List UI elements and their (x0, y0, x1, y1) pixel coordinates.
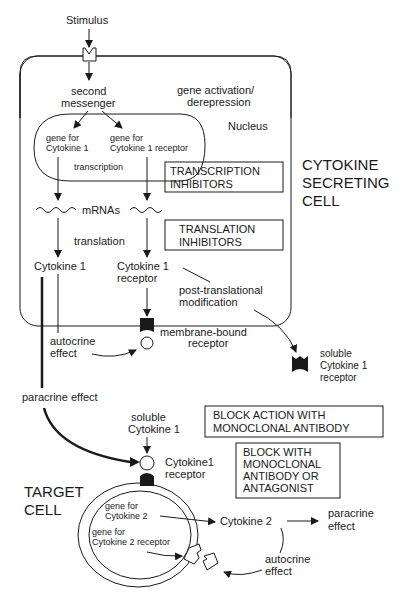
autocrine-line2: effect (50, 347, 77, 359)
cytokine1-receptor-line1: Cytokine 1 (117, 260, 169, 272)
gene-receptor-line2: Cytokine 1 receptor (110, 143, 188, 153)
mrnas-label: mRNAs (82, 204, 120, 216)
translation-label: translation (74, 235, 125, 247)
soluble-cytokine-line1: soluble (131, 411, 166, 423)
cytokine2-receptor-icon (184, 544, 201, 564)
autocrine2-line1: autocrine (265, 553, 310, 565)
translation-inhibitors-line2: INHIBITORS (179, 236, 242, 248)
bound-cytokine-icon (141, 337, 153, 349)
autocrine2-arrow (224, 570, 262, 575)
block-action-line1: BLOCK ACTION WITH (213, 409, 326, 421)
stimulus-label: Stimulus (66, 14, 109, 26)
cytokine2-arrow (160, 516, 215, 522)
soluble-receptor-line3: receptor (320, 372, 357, 383)
transcription-inhibitors-line1: TRANSCRIPTION (170, 165, 260, 177)
transcription-inhibitors-line2: INHIBITORS (170, 178, 233, 190)
receptor2-arrow (147, 552, 182, 556)
transcription-label: transcription (74, 162, 123, 172)
post-translational-connector (183, 268, 210, 282)
second-messenger-line2: messenger (61, 97, 116, 109)
gene-receptor-line1: gene for (110, 133, 143, 143)
target-receptor-line1: Cytokine1 (165, 456, 214, 468)
target-cell-label-line2: CELL (24, 501, 62, 518)
block-with-line3: ANTIBODY OR (243, 470, 319, 482)
gene-cytokine1-line1: gene for (46, 133, 79, 143)
post-translational-line1: post-translational (179, 284, 263, 296)
soluble-cytokine-line2: Cytokine 1 (128, 423, 180, 435)
gene-activation-line2: derepression (187, 96, 251, 108)
secreting-cell-label-line1: CYTOKINE (302, 156, 378, 173)
autocrine-line1: autocrine (50, 335, 95, 347)
gene-cytokine2-line1: gene for (105, 501, 138, 511)
stimulus-receptor-icon (83, 48, 96, 61)
gene-cytokine2-receptor-line2: Cytokine 2 receptor (92, 537, 170, 547)
membrane-bound-line2: receptor (188, 337, 229, 349)
gene-cytokine1-line2: Cytokine 1 (46, 143, 89, 153)
secreting-cell-label-line3: CELL (302, 192, 340, 209)
cytokine1-label: Cytokine 1 (34, 260, 86, 272)
second-messenger-line1: second (71, 85, 106, 97)
mrna-wave-1 (36, 208, 76, 213)
gene-cytokine2-line2: Cytokine 2 (105, 511, 148, 521)
paracrine-label: paracrine effect (22, 391, 98, 403)
cytokine2-icon (203, 553, 218, 570)
paracrine-curve (44, 408, 130, 462)
mrna-wave-2 (130, 208, 162, 213)
autocrine2-line2: effect (265, 565, 292, 577)
target-cell-label-line1: TARGET (24, 483, 84, 500)
membrane-receptor-icon (140, 318, 154, 332)
block-action-line2: MONOCLONAL ANTIBODY (213, 422, 350, 434)
secreting-cell-label-line2: SECRETING (302, 174, 390, 191)
soluble-receptor-line2: Cytokine 1 (320, 360, 368, 371)
soluble-receptor-line1: soluble (320, 348, 352, 359)
autocrine2-connector (280, 528, 283, 553)
nucleus-label: Nucleus (228, 120, 268, 132)
cytokine2-label: Cytokine 2 (220, 515, 272, 527)
block-with-line2: MONOCLONAL (243, 458, 321, 470)
cytokine-pathway-diagram: Stimulus second messenger gene activatio… (0, 0, 404, 602)
gene-activation-line1: gene activation/ (177, 84, 255, 96)
soluble-receptor-arrow (254, 310, 296, 352)
block-with-line4: ANTAGONIST (243, 482, 314, 494)
translation-inhibitors-line1: TRANSLATION (179, 223, 255, 235)
post-translational-line2: modification (179, 296, 238, 308)
target-cytokine-icon (140, 456, 154, 470)
autocrine-arrow (92, 350, 136, 356)
gene-cytokine2-receptor-line1: gene for (92, 527, 125, 537)
target-receptor-line2: receptor (165, 468, 206, 480)
paracrine2-line1: effect (328, 520, 355, 532)
cytokine1-receptor-line2: receptor (117, 272, 158, 284)
block-with-line1: BLOCK WITH (243, 446, 312, 458)
paracrine2-line1: paracrine (328, 507, 374, 519)
soluble-receptor-icon (292, 356, 308, 372)
